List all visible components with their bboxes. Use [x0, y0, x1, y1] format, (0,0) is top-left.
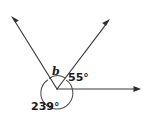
diagram-canvas — [0, 0, 154, 119]
horizontal-right-ray — [57, 86, 141, 92]
upper-left-ray-line — [16, 22, 58, 89]
upper-left-arrowhead — [11, 16, 19, 23]
angle-239-label: 239° — [31, 101, 59, 112]
horizontal-right-arrowhead — [134, 86, 142, 92]
angle-55-label: 55° — [68, 72, 89, 83]
upper-right-arrowhead — [102, 19, 110, 26]
angle-diagram-figure: b 55° 239° — [0, 0, 154, 119]
angle-b-label: b — [52, 66, 60, 77]
